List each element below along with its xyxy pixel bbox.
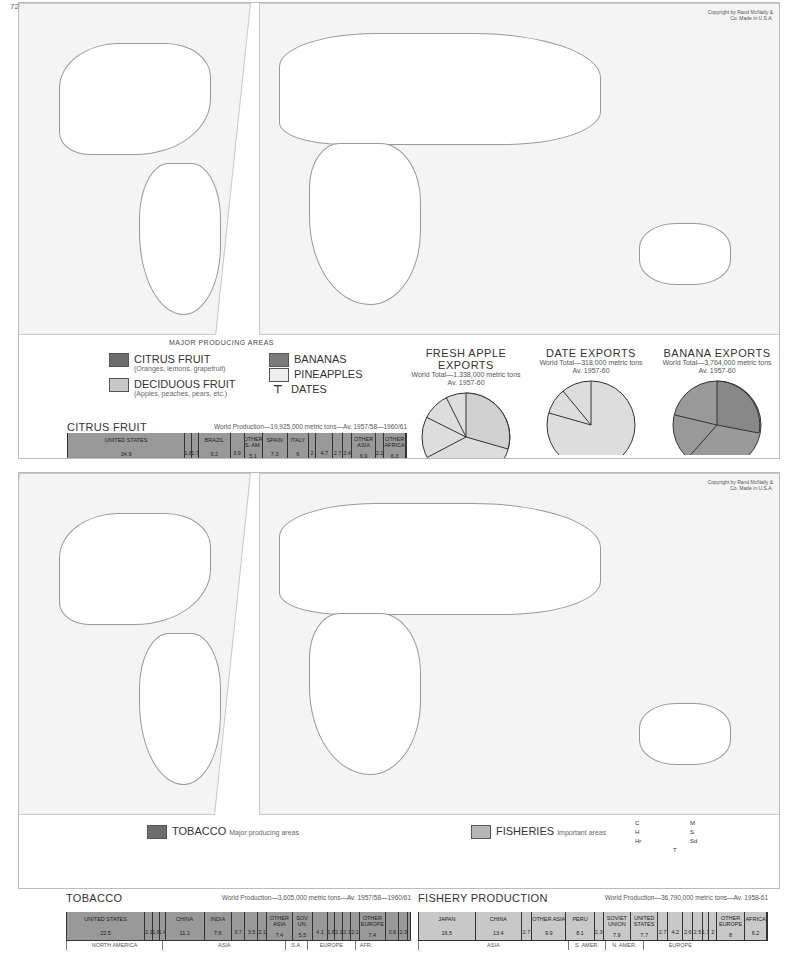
bar-segment: 2.7 — [658, 912, 668, 940]
bar-segment: 2.1 — [335, 912, 343, 940]
bar-segment: OTHER S. AM.5.1 — [245, 433, 263, 459]
region-label: NORTH AMERICA — [66, 941, 162, 950]
north-america-land — [59, 513, 211, 625]
region-label: ASIA — [418, 941, 568, 950]
bar-segment: OTHER EUROPE7.4 — [360, 912, 386, 940]
fish-codes-legend: CM HS HrSd T — [635, 819, 755, 855]
region-label: EUROPE — [643, 941, 718, 950]
bar-segment: 2.6 — [683, 912, 693, 940]
bar-segment: 2.3 — [399, 912, 408, 940]
region-label: S.A. — [285, 941, 306, 950]
bar-segment: 4.1 — [313, 912, 328, 940]
australia-land — [639, 703, 731, 765]
tobacco-regions: NORTH AMERICAASIAS.A.EUROPEAFR. — [66, 941, 411, 950]
citrus-bar-chart: CITRUS FRUIT World Production—19,925,000… — [67, 421, 407, 459]
bar-segment: OTHER ASIA6.9 — [352, 433, 376, 459]
bar-segment: UNITED STATES34.9 — [68, 433, 185, 459]
citrus-bars: UNITED STATES34.91.81.7BRAZIL9.23.9OTHER… — [67, 433, 407, 459]
eurasia-land — [279, 33, 601, 145]
apple-exports-pie: FRESH APPLE EXPORTS World Total—1,338,00… — [406, 347, 526, 459]
bar-segment: SPAIN7.3 — [263, 433, 288, 459]
pineapples-swatch — [269, 368, 289, 382]
bar-segment: OTHER AFRICA6.3 — [384, 433, 406, 459]
legend-tobacco: TOBACCO Major producing areas — [147, 825, 299, 839]
bar-segment: 2.1 — [343, 912, 351, 940]
region-label: AFR. — [355, 941, 376, 950]
bananas-swatch — [269, 353, 289, 367]
australia-land — [639, 223, 731, 285]
bar-segment: 2 — [709, 912, 717, 940]
apple-pie-graphic — [416, 387, 516, 459]
bar-segment: BRAZIL9.2 — [199, 433, 231, 459]
bar-segment: 2.1 — [258, 912, 266, 940]
bar-segment: 3.5 — [245, 912, 258, 940]
bar-segment: SOVIET UNION7.9 — [604, 912, 632, 940]
legend-fisheries: FISHERIES Important areas — [471, 825, 606, 839]
bar-segment: OTHER ASIA7.4 — [267, 912, 293, 940]
bar-segment: 4.7 — [316, 433, 333, 459]
bar-segment: 2.1 — [351, 912, 359, 940]
bar-segment: 1.8 — [185, 433, 192, 459]
bar-segment: 3.9 — [231, 433, 245, 459]
eurasia-land — [279, 503, 601, 615]
tobacco-fisheries-map-panel: Copyright by Rand McNally & Co. Made in … — [18, 472, 780, 889]
date-pie-graphic — [541, 375, 641, 455]
bar-segment: CHINA11.1 — [166, 912, 205, 940]
tobacco-bars: UNITED STATES22.52.11.61.4CHINA11.1INDIA… — [66, 912, 411, 941]
fishery-bars: JAPAN16.5CHINA13.42.7OTHER ASIA9.9PERU8.… — [418, 912, 768, 941]
region-label: N. AMER. — [605, 941, 642, 950]
map-subtitle: MAJOR PRODUCING AREAS — [169, 339, 274, 346]
copyright-note: Copyright by Rand McNally & Co. Made in … — [703, 479, 773, 491]
region-label: EUROPE — [307, 941, 355, 950]
bar-segment: 2.7 — [522, 912, 532, 940]
bar-segment: OTHER ASIA9.9 — [532, 912, 566, 940]
legend-dates: ⊤DATES — [273, 383, 327, 396]
bar-segment: 2.1 — [376, 433, 384, 459]
bar-segment: ITALY6 — [288, 433, 309, 459]
bar-segment: 2.5 — [693, 912, 702, 940]
fisheries-swatch — [471, 825, 491, 839]
bar-segment: INDIA7.6 — [205, 912, 232, 940]
legend-bananas: BANANAS — [269, 353, 347, 367]
bar-segment: 2.3 — [595, 912, 604, 940]
tobacco-swatch — [147, 825, 167, 839]
bar-segment: 1.7 — [703, 912, 710, 940]
date-palm-icon: ⊤ — [273, 383, 283, 395]
fruit-map-panel: Copyright by Rand McNally & Co. Made in … — [18, 2, 780, 459]
bar-segment: 1.8 — [328, 912, 335, 940]
bar-segment: 4.2 — [668, 912, 683, 940]
legend-citrus: CITRUS FRUIT(Oranges, lemons, grapefruit… — [109, 353, 225, 372]
fishery-regions: ASIAS. AMER.N. AMER.EUROPE — [418, 941, 768, 950]
bar-segment: 2.4 — [343, 433, 352, 459]
bar-segment: UNITED STATES7.7 — [631, 912, 658, 940]
bar-segment: 2.1 — [145, 912, 153, 940]
banana-exports-pie: BANANA EXPORTS World Total—3,764,000 met… — [657, 347, 777, 459]
bar-segment: CHINA13.4 — [476, 912, 522, 940]
bar-segment: AFRICA6.2 — [745, 912, 767, 940]
tobacco-bar-chart: TOBACCO World Production—3,605,000 metri… — [66, 892, 411, 950]
deciduous-swatch — [109, 378, 129, 392]
copyright-note: Copyright by Rand McNally & Co. Made in … — [703, 9, 773, 21]
bar-segment: SOV. UN.5.5 — [293, 912, 313, 940]
bar-segment: 2 — [309, 433, 317, 459]
legend-pineapples: PINEAPPLES — [269, 368, 362, 382]
bar-segment: UNITED STATES22.5 — [67, 912, 145, 940]
region-label: ASIA — [162, 941, 285, 950]
bar-segment: 3.6 — [386, 912, 399, 940]
date-exports-pie: DATE EXPORTS World Total—318,000 metric … — [531, 347, 651, 459]
north-america-land — [59, 43, 211, 155]
bar-segment: JAPAN16.5 — [419, 912, 476, 940]
bar-segment: OTHER EUROPE8 — [717, 912, 745, 940]
citrus-swatch — [109, 353, 129, 367]
bar-segment: PERU8.1 — [566, 912, 594, 940]
banana-pie-graphic — [667, 375, 767, 455]
bar-segment: 1.7 — [192, 433, 199, 459]
region-label: S. AMER. — [568, 941, 605, 950]
bar-segment: 2.7 — [333, 433, 343, 459]
legend-deciduous: DECIDUOUS FRUIT(Apples, peaches, pears, … — [109, 378, 235, 397]
fishery-bar-chart: FISHERY PRODUCTION World Production—36,7… — [418, 892, 768, 950]
bar-segment: 3.7 — [232, 912, 246, 940]
